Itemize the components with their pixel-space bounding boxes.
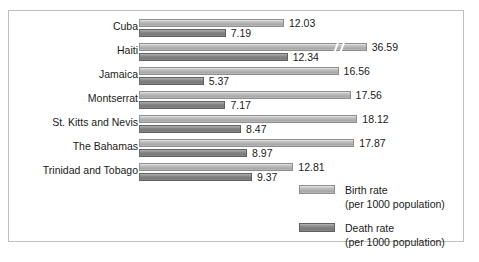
bar-death-rate [139,77,204,85]
bar-group: 18.128.47 [139,114,465,136]
value-label-death-rate: 7.17 [230,100,250,110]
legend-swatch-birth-rate [299,185,335,194]
chart-row: Haiti36.5912.34 [9,41,465,65]
value-label-birth-rate: 18.12 [362,114,388,124]
category-label-jamaica: Jamaica [0,68,138,80]
bar-birth-rate [139,91,351,99]
bar-birth-rate [139,43,367,51]
bar-death-rate [139,29,226,37]
bar-death-rate [139,125,241,133]
value-label-death-rate: 8.47 [246,124,266,134]
chart-row: Montserrat17.567.17 [9,89,465,113]
value-label-birth-rate: 12.03 [289,18,315,28]
chart-row: The Bahamas17.878.97 [9,137,465,161]
bar-death-rate [139,173,252,181]
bar-group: 16.565.37 [139,66,465,88]
value-label-birth-rate: 36.59 [372,42,398,52]
category-label-st-kitts-and-nevis: St. Kitts and Nevis [0,116,138,128]
value-label-death-rate: 7.19 [231,28,251,38]
category-label-trinidad-and-tobago: Trinidad and Tobago [0,164,138,176]
bar-death-rate [139,101,225,109]
bar-group: 17.878.97 [139,138,465,160]
plot-area: Cuba12.037.19Haiti36.5912.34Jamaica16.56… [9,11,465,186]
legend-sublabel-birth-rate: (per 1000 population) [345,197,445,211]
value-label-birth-rate: 17.87 [359,138,385,148]
bar-group: 12.819.37 [139,162,465,184]
legend-item-death-rate: Death rate (per 1000 population) [299,221,469,251]
category-label-haiti: Haiti [0,44,138,56]
bar-birth-rate [139,139,354,147]
value-label-birth-rate: 17.56 [356,90,382,100]
legend-label-death-rate: Death rate [345,221,394,235]
category-label-the-bahamas: The Bahamas [0,140,138,152]
chart-row: Jamaica16.565.37 [9,65,465,89]
chart-frame: Cuba12.037.19Haiti36.5912.34Jamaica16.56… [8,10,464,242]
chart-legend: Birth rate (per 1000 population) Death r… [299,183,469,259]
bar-group: 12.037.19 [139,18,465,40]
bar-birth-rate [139,67,339,75]
value-label-death-rate: 12.34 [293,52,319,62]
chart-row: Trinidad and Tobago12.819.37 [9,161,465,185]
bar-birth-rate [139,115,357,123]
chart-row: St. Kitts and Nevis18.128.47 [9,113,465,137]
bar-birth-rate [139,163,293,171]
category-label-montserrat: Montserrat [0,92,138,104]
legend-label-birth-rate: Birth rate [345,183,388,197]
chart-row: Cuba12.037.19 [9,17,465,41]
value-label-death-rate: 8.97 [252,148,272,158]
bar-death-rate [139,149,247,157]
bar-birth-rate [139,19,284,27]
legend-sublabel-death-rate: (per 1000 population) [345,235,445,249]
value-label-death-rate: 5.37 [209,76,229,86]
value-label-death-rate: 9.37 [257,172,277,182]
value-label-birth-rate: 12.81 [298,162,324,172]
category-label-cuba: Cuba [0,20,138,32]
bar-group: 36.5912.34 [139,42,465,64]
bar-death-rate [139,53,288,61]
legend-swatch-death-rate [299,223,335,232]
legend-item-birth-rate: Birth rate (per 1000 population) [299,183,469,213]
value-label-birth-rate: 16.56 [344,66,370,76]
bar-group: 17.567.17 [139,90,465,112]
